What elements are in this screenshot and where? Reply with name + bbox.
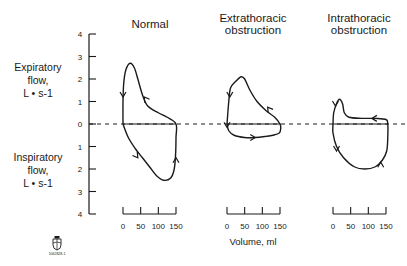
- ylabel-top-3: L • s-1: [23, 87, 53, 99]
- panel-title: Normal: [131, 18, 168, 30]
- x-tick-label: 50: [136, 222, 145, 231]
- y-tick-label: 4: [78, 30, 83, 39]
- panel-extrathoracic-obstruction: Extrathoracicobstruction050100150: [219, 12, 287, 231]
- x-tick-label: 0: [331, 222, 336, 231]
- y-tick-label: 2: [78, 75, 83, 84]
- panel-title: Intrathoracic: [327, 12, 391, 24]
- flow-volume-loop: [123, 63, 177, 180]
- y-tick-label: 3: [78, 53, 83, 62]
- direction-arrow-icon: [132, 152, 137, 158]
- ylabel-bottom-1: Inspiratory: [13, 151, 63, 163]
- x-tick-label: 150: [379, 222, 393, 231]
- panel-title: obstruction: [225, 24, 281, 36]
- ylabel-top-2: flow,: [27, 74, 48, 86]
- y-tick-label: 1: [78, 143, 83, 152]
- direction-arrow-icon: [332, 101, 338, 106]
- x-tick-label: 150: [273, 222, 287, 231]
- ylabel-bottom-2: flow,: [27, 164, 48, 176]
- panel-normal: Normal050100150: [120, 18, 183, 231]
- x-tick-label: 100: [256, 222, 270, 231]
- flow-volume-loop: [227, 77, 281, 138]
- direction-arrow-icon: [378, 162, 384, 167]
- x-tick-label: 150: [169, 222, 183, 231]
- ylabel-top-1: Expiratory: [14, 61, 62, 73]
- y-tick-label: 4: [78, 210, 83, 219]
- x-tick-label: 100: [362, 222, 376, 231]
- y-tick-label: 0: [78, 120, 83, 129]
- logo-caption: 1062828-1: [49, 252, 66, 256]
- x-tick-label: 0: [225, 222, 230, 231]
- direction-arrow-icon: [173, 158, 179, 163]
- flow-volume-loop: [333, 99, 388, 169]
- x-tick-label: 50: [346, 222, 355, 231]
- direction-arrow-icon: [268, 107, 273, 113]
- x-axis-label: Volume, ml: [230, 236, 277, 247]
- x-tick-label: 0: [121, 222, 126, 231]
- y-tick-label: 1: [78, 98, 83, 107]
- panel-title: Extrathoracic: [219, 12, 286, 24]
- y-tick-label: 3: [78, 188, 83, 197]
- panel-intrathoracic-obstruction: Intrathoracicobstruction050100150: [327, 12, 393, 231]
- y-tick-label: 2: [78, 165, 83, 174]
- panel-title: obstruction: [331, 24, 387, 36]
- x-tick-label: 100: [152, 222, 166, 231]
- x-tick-label: 50: [240, 222, 249, 231]
- direction-arrow-icon: [144, 97, 149, 103]
- mayo-logo-icon: [53, 236, 61, 250]
- flow-volume-chart: 432101234 Expiratory flow, L • s-1 Inspi…: [0, 0, 407, 266]
- ylabel-bottom-3: L • s-1: [23, 177, 53, 189]
